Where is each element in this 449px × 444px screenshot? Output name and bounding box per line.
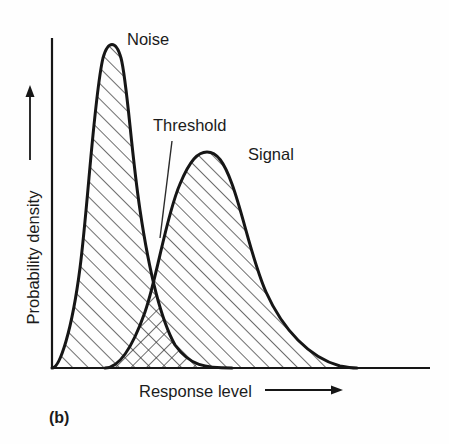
signal-label: Signal: [248, 145, 294, 164]
y-axis-label: Probability density: [24, 178, 43, 338]
noise-label: Noise: [127, 30, 169, 49]
panel-label: (b): [49, 409, 69, 427]
x-axis-label: Response level: [139, 382, 252, 401]
signal-detection-plot: [0, 0, 449, 444]
y-axis-arrow-icon: [26, 85, 35, 160]
figure-panel: Noise Threshold Signal Probability densi…: [0, 0, 449, 444]
x-axis-arrow-icon: [265, 386, 343, 395]
threshold-label: Threshold: [153, 116, 226, 135]
